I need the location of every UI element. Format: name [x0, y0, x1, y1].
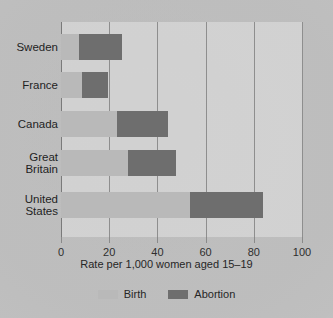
bar-row	[61, 192, 263, 218]
x-tick-20	[109, 237, 110, 243]
bar-segment-abortion	[117, 111, 168, 137]
legend-label-birth: Birth	[124, 288, 147, 300]
x-tick-100	[302, 237, 303, 243]
bar-segment-abortion	[82, 72, 108, 98]
gridline-100	[302, 22, 303, 237]
x-tick-label-20: 20	[103, 246, 115, 258]
x-axis-title: Rate per 1,000 women aged 15–19	[0, 258, 333, 270]
bar-row	[61, 150, 176, 176]
x-tick-label-80: 80	[248, 246, 260, 258]
bar-segment-birth	[61, 192, 190, 218]
bar-segment-birth	[61, 72, 82, 98]
legend-item-birth: Birth	[98, 288, 147, 300]
bar-segment-abortion	[79, 34, 122, 60]
legend-swatch-birth	[98, 290, 118, 299]
x-tick-60	[206, 237, 207, 243]
x-tick-40	[157, 237, 158, 243]
chart-legend: Birth Abortion	[0, 288, 333, 300]
category-label: France	[22, 79, 58, 92]
x-tick-label-0: 0	[58, 246, 64, 258]
stacked-bar-chart: 020406080100 Rate per 1,000 women aged 1…	[0, 0, 333, 318]
legend-swatch-abortion	[168, 290, 188, 299]
x-tick-label-40: 40	[151, 246, 163, 258]
x-tick-label-60: 60	[199, 246, 211, 258]
plot-area: 020406080100	[61, 22, 302, 237]
legend-label-abortion: Abortion	[194, 288, 235, 300]
bar-row	[61, 111, 168, 137]
bar-row	[61, 72, 108, 98]
x-tick-0	[61, 237, 62, 243]
bar-segment-abortion	[128, 150, 176, 176]
bar-row	[61, 34, 122, 60]
category-label: United States	[25, 193, 58, 218]
x-tick-80	[254, 237, 255, 243]
category-label: Canada	[18, 118, 58, 131]
category-label: Great Britain	[25, 151, 58, 176]
bar-segment-birth	[61, 150, 128, 176]
x-tick-label-100: 100	[293, 246, 311, 258]
category-label: Sweden	[16, 41, 58, 54]
bar-segment-birth	[61, 111, 117, 137]
legend-item-abortion: Abortion	[168, 288, 235, 300]
bar-segment-abortion	[190, 192, 263, 218]
bar-segment-birth	[61, 34, 79, 60]
